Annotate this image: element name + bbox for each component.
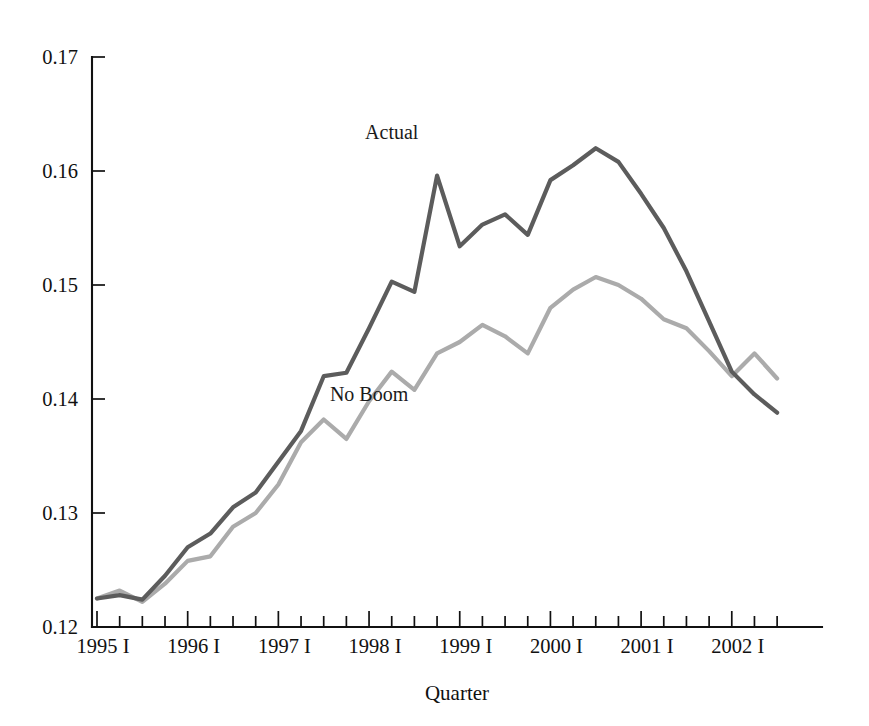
x-tick-label: 2000 I	[530, 635, 583, 657]
series-line-no-boom	[97, 277, 777, 602]
series-annotation-no-boom: No Boom	[330, 383, 409, 405]
line-chart-canvas: 0.120.130.140.150.160.17 1995 I1996 I199…	[0, 0, 869, 726]
y-tick-label: 0.13	[42, 502, 78, 524]
chart-figure: 0.120.130.140.150.160.17 1995 I1996 I199…	[0, 0, 869, 726]
x-axis-group: 1995 I1996 I1997 I1998 I1999 I2000 I2001…	[77, 611, 822, 657]
y-tick-label: 0.17	[42, 46, 78, 68]
y-tick-label: 0.12	[42, 616, 78, 638]
y-axis-group: 0.120.130.140.150.160.17	[42, 46, 105, 638]
x-axis-title: Quarter	[425, 681, 489, 705]
x-tick-label: 1998 I	[349, 635, 402, 657]
x-tick-label: 2002 I	[711, 635, 764, 657]
series-line-actual	[97, 148, 777, 599]
x-tick-label: 1999 I	[439, 635, 492, 657]
x-tick-label: 1995 I	[77, 635, 130, 657]
y-tick-label: 0.15	[42, 274, 78, 296]
x-tick-group: 1995 I1996 I1997 I1998 I1999 I2000 I2001…	[77, 611, 778, 657]
x-tick-label: 2001 I	[621, 635, 674, 657]
y-tick-label: 0.16	[42, 160, 78, 182]
series-group	[97, 148, 777, 602]
series-annotation-actual: Actual	[365, 121, 419, 143]
y-tick-label: 0.14	[42, 388, 78, 410]
series-annotation-group: ActualNo Boom	[330, 121, 419, 405]
x-tick-label: 1997 I	[258, 635, 311, 657]
y-tick-group: 0.120.130.140.150.160.17	[42, 46, 105, 638]
x-tick-label: 1996 I	[167, 635, 220, 657]
